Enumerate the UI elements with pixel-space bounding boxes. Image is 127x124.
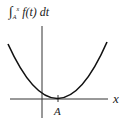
upper-limit: x	[17, 6, 20, 12]
x-axis-label: x	[113, 91, 119, 107]
integrand: f(t) dt	[22, 5, 49, 19]
integral-graph: ∫Ax f(t) dt x A	[0, 0, 127, 124]
parabola-curve	[8, 42, 107, 99]
tick-label-a: A	[54, 105, 61, 117]
lower-limit: A	[13, 14, 17, 20]
y-axis-label: ∫Ax f(t) dt	[9, 2, 49, 24]
